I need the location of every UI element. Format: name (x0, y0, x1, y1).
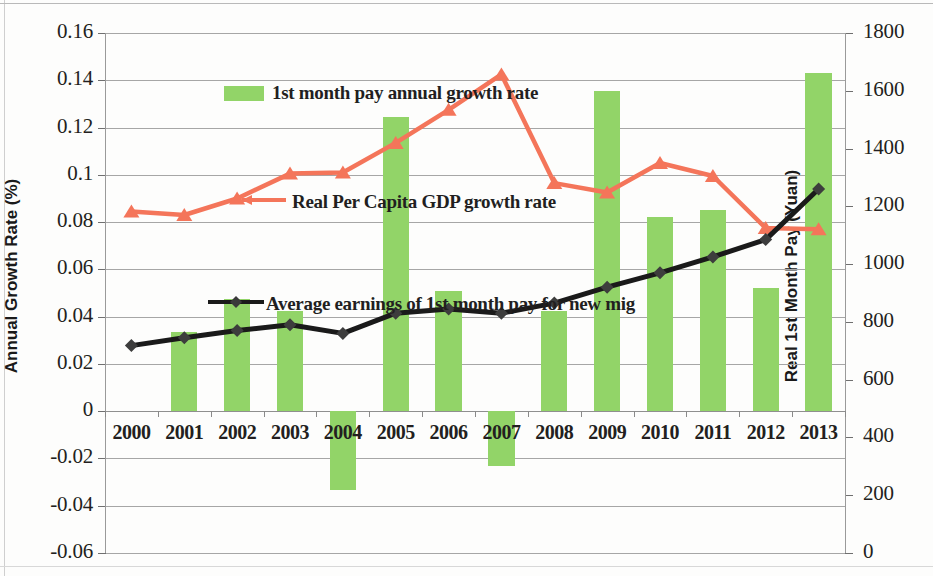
pay-series-label: Average earnings of 1st month pay for ne… (266, 293, 635, 315)
y-axis-right-tick (845, 149, 853, 150)
y-axis-left-tick-label: -0.06 (7, 539, 93, 564)
y-axis-right-tick (845, 437, 853, 438)
x-axis-tick-label: 2009 (581, 421, 634, 444)
line-marker (125, 339, 138, 352)
x-axis-tick-label: 2001 (158, 421, 211, 444)
y-axis-right-tick (845, 264, 853, 265)
x-axis-tick-label: 2004 (316, 421, 369, 444)
x-axis-tick (105, 411, 106, 417)
y-axis-left-tick-label: 0.04 (7, 303, 93, 328)
y-axis-right-tick (845, 206, 853, 207)
y-axis-right-tick-label: 400 (863, 423, 933, 448)
y-axis-left-line (105, 33, 106, 553)
x-axis-tick-label: 2002 (211, 421, 264, 444)
x-axis-tick-label: 2003 (264, 421, 317, 444)
x-axis-tick (158, 411, 159, 417)
x-axis-tick (264, 411, 265, 417)
x-axis-tick-label: 2000 (105, 421, 158, 444)
x-axis-tick (369, 411, 370, 417)
y-axis-left-tick-label: 0.12 (7, 114, 93, 139)
x-axis-tick (634, 411, 635, 417)
line-marker (706, 250, 719, 263)
y-axis-right-tick-label: 0 (863, 539, 933, 564)
y-axis-left-tick-label: 0.14 (7, 66, 93, 91)
x-axis-tick-label: 2013 (792, 421, 845, 444)
line-marker (654, 266, 667, 279)
x-axis-tick (528, 411, 529, 417)
gdp-series-marker (240, 192, 290, 208)
y-axis-left-tick-label: 0.08 (7, 208, 93, 233)
y-axis-left-tick-label: 0.06 (7, 255, 93, 280)
y-axis-right-tick (845, 495, 853, 496)
y-axis-right-tick (845, 380, 853, 381)
y-axis-right-tick-label: 1600 (863, 77, 933, 102)
x-axis-tick-label: 2010 (634, 421, 687, 444)
x-axis-tick (792, 411, 793, 417)
x-axis-tick-label: 2005 (369, 421, 422, 444)
gdp-series-label: Real Per Capita GDP growth rate (292, 191, 556, 213)
x-axis-tick-label: 2011 (686, 421, 739, 444)
y-axis-right-tick (845, 553, 853, 554)
x-axis-tick (211, 411, 212, 417)
y-axis-left-tick-label: -0.02 (7, 444, 93, 469)
y-axis-right-tick-label: 1200 (863, 192, 933, 217)
line-marker (284, 318, 297, 331)
y-axis-right-tick-label: 1800 (863, 19, 933, 44)
x-axis-tick (422, 411, 423, 417)
x-axis-tick (316, 411, 317, 417)
y-axis-right-tick (845, 91, 853, 92)
x-axis-tick-label: 2008 (528, 421, 581, 444)
line-marker (336, 327, 349, 340)
x-axis-tick (475, 411, 476, 417)
chart-figure: Annual Growth Rate (%) Real 1st Month Pa… (0, 0, 933, 576)
x-axis-tick (739, 411, 740, 417)
y-axis-right-tick-label: 800 (863, 308, 933, 333)
y-axis-left-tick-label: 0.1 (7, 161, 93, 186)
y-axis-right-line (845, 33, 846, 553)
y-axis-left-tick (98, 553, 106, 554)
y-axis-left-tick-label: -0.04 (7, 492, 93, 517)
y-axis-right-tick (845, 33, 853, 34)
y-axis-right-tick (845, 322, 853, 323)
x-axis-tick-label: 2006 (422, 421, 475, 444)
line-marker (178, 331, 191, 344)
line-marker (601, 281, 614, 294)
x-axis-tick-label: 2012 (739, 421, 792, 444)
y-axis-left-tick-label: 0 (7, 397, 93, 422)
x-axis-tick (581, 411, 582, 417)
pay-series-marker (208, 294, 268, 310)
x-axis-tick (845, 411, 846, 417)
line-marker (493, 67, 509, 80)
line-marker (231, 324, 244, 337)
x-axis-tick (686, 411, 687, 417)
y-axis-right-tick-label: 1400 (863, 135, 933, 160)
x-axis-tick-label: 2007 (475, 421, 528, 444)
y-axis-right-tick-label: 1000 (863, 250, 933, 275)
gridline (105, 553, 845, 554)
bar-series-label: 1st month pay annual growth rate (272, 82, 538, 104)
y-axis-left-tick-label: 0.02 (7, 350, 93, 375)
bar-series-swatch (224, 86, 264, 101)
y-axis-right-tick-label: 200 (863, 481, 933, 506)
y-axis-left-tick-label: 0.16 (7, 19, 93, 44)
y-axis-right-tick-label: 600 (863, 366, 933, 391)
